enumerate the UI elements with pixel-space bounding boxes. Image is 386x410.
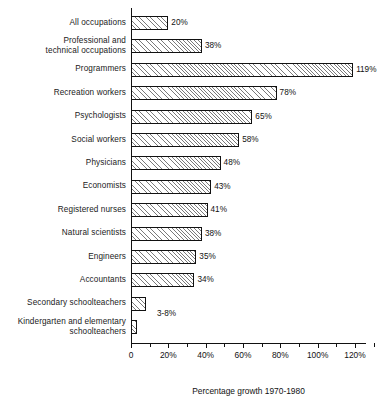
category-label: Engineers [0, 252, 126, 262]
bar-value-label: 38% [205, 41, 221, 51]
bar-value-label: 3-8% [157, 309, 176, 319]
category-label: Physicians [0, 158, 126, 168]
x-tick-major [243, 343, 244, 348]
bar-value-label: 41% [211, 205, 227, 215]
bar-value-label: 48% [224, 158, 240, 168]
x-tick-minor [336, 343, 337, 347]
y-axis-line [131, 8, 132, 343]
x-tick-major [318, 343, 319, 348]
bar-chart: All occupations20%Professional andtechni… [0, 0, 386, 410]
x-tick-label: 40% [186, 350, 226, 360]
bar-value-label: 35% [199, 252, 215, 262]
x-tick-label: 20% [148, 350, 188, 360]
category-label: Economists [0, 181, 126, 191]
category-label: Registered nurses [0, 205, 126, 215]
bar-value-label: 34% [197, 275, 213, 285]
x-tick-major [168, 343, 169, 348]
category-label: All occupations [0, 18, 126, 28]
x-tick-minor [150, 343, 151, 347]
category-label: Natural scientists [0, 228, 126, 238]
category-label: Professional andtechnical occupations [0, 36, 126, 56]
x-tick-minor [224, 343, 225, 347]
bar [131, 110, 252, 124]
bar [131, 180, 211, 194]
bar-value-label: 119% [356, 65, 376, 75]
x-tick-minor [374, 343, 375, 347]
category-label-line2: technical occupations [46, 46, 126, 55]
category-label: Psychologists [0, 111, 126, 121]
bar [131, 16, 168, 30]
bar-value-label: 38% [205, 229, 221, 239]
category-label: Secondary schoolteachers [0, 298, 126, 308]
bar [131, 86, 277, 100]
bar [131, 250, 196, 264]
plot-area: All occupations20%Professional andtechni… [0, 0, 386, 410]
bar [131, 320, 137, 334]
category-label: Programmers [0, 64, 126, 74]
x-tick-label: 80% [260, 350, 300, 360]
bar [131, 156, 221, 170]
x-tick-label: 120% [335, 350, 375, 360]
bar [131, 273, 194, 287]
bar-value-label: 58% [242, 135, 258, 145]
x-tick-label: 0 [111, 350, 151, 360]
bar-value-label: 65% [255, 112, 271, 122]
x-tick-minor [299, 343, 300, 347]
category-label: Accountants [0, 275, 126, 285]
x-tick-label: 60% [223, 350, 263, 360]
bar [131, 39, 202, 53]
category-label: Kindergarten and elementaryschoolteacher… [0, 317, 126, 337]
x-tick-label: 100% [298, 350, 338, 360]
bar [131, 227, 202, 241]
x-tick-major [355, 343, 356, 348]
x-axis-line [131, 343, 366, 344]
bar-value-label: 20% [171, 18, 187, 28]
bar [131, 203, 208, 217]
x-tick-major [280, 343, 281, 348]
bar-value-label: 43% [214, 182, 230, 192]
x-tick-minor [262, 343, 263, 347]
bar [131, 133, 239, 147]
bar [131, 63, 353, 77]
x-tick-major [206, 343, 207, 348]
category-label: Recreation workers [0, 88, 126, 98]
x-tick-minor [187, 343, 188, 347]
x-axis-title: Percentage growth 1970-1980 [131, 386, 366, 396]
bar-value-label: 78% [280, 88, 296, 98]
x-tick-major [131, 343, 132, 348]
category-label-line2: schoolteachers [70, 327, 126, 336]
category-label: Social workers [0, 135, 126, 145]
bar [131, 297, 146, 311]
